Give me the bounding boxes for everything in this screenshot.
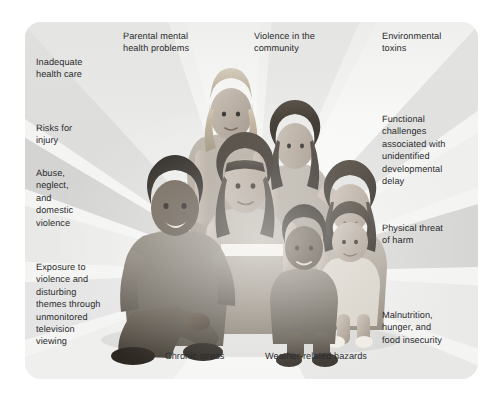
figure-canvas: Inadequate health care Parental mental h… <box>0 0 503 407</box>
label-inadequate-health-care: Inadequate health care <box>36 56 82 81</box>
label-physical-threat-of-harm: Physical threat of harm <box>382 222 443 247</box>
label-violence-in-the-community: Violence in the community <box>254 30 315 55</box>
label-exposure-to-violence-tv: Exposure to violence and disturbing them… <box>36 261 101 348</box>
label-abuse-neglect-domestic-violence: Abuse, neglect, and domestic violence <box>36 167 73 229</box>
label-functional-challenges: Functional challenges associated with un… <box>382 113 446 187</box>
illustration-panel: Inadequate health care Parental mental h… <box>25 22 478 379</box>
label-weather-related-hazards: Weather-related hazards <box>265 350 367 362</box>
label-chronic-stress: Chronic stress <box>165 350 224 362</box>
label-malnutrition-hunger: Malnutrition, hunger, and food insecurit… <box>382 309 442 346</box>
label-environmental-toxins: Environmental toxins <box>382 30 441 55</box>
label-risks-for-injury: Risks for injury <box>36 122 72 147</box>
label-parental-mental-health: Parental mental health problems <box>123 30 189 55</box>
